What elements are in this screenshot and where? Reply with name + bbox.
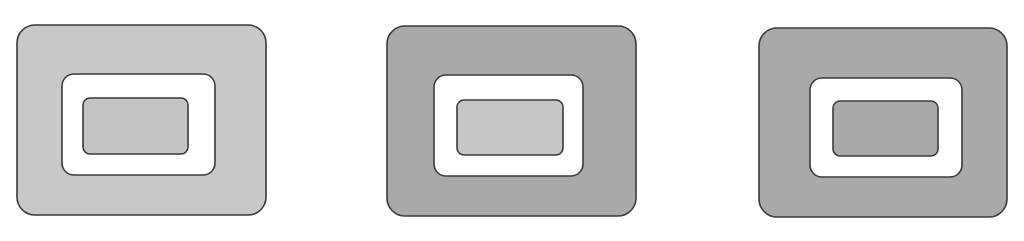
panel-3: [759, 28, 1007, 217]
panel-1: [17, 25, 266, 215]
panel-3-inner-rect: [833, 101, 938, 156]
figure-canvas: [0, 0, 1024, 241]
panel-1-inner-rect: [83, 98, 188, 154]
panel-2: [387, 26, 636, 216]
panel-2-inner-rect: [457, 100, 563, 155]
